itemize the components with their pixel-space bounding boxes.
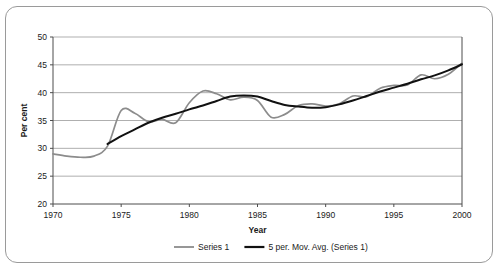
x-tick-label-1980: 1980 [180, 210, 199, 220]
series-line-2 [108, 64, 462, 144]
chart-legend: Series 15 per. Mov. Avg. (Series 1) [174, 242, 368, 252]
chart-plot-area: 20253035404550 1970197519801985199019952… [6, 7, 494, 264]
data-series-group [53, 63, 462, 157]
legend-label-1: Series 1 [198, 242, 229, 252]
x-tick-label-1975: 1975 [112, 210, 131, 220]
y-axis-title: Per cent [19, 104, 29, 138]
x-tick-label-1985: 1985 [248, 210, 267, 220]
x-tick-label-1990: 1990 [316, 210, 335, 220]
x-tick-label-1970: 1970 [44, 210, 63, 220]
y-tick-label-35: 35 [38, 116, 48, 126]
gridlines-group [53, 37, 462, 176]
series-line-1 [53, 63, 462, 157]
x-tick-label-2000: 2000 [453, 210, 472, 220]
x-axis-title: Year [249, 225, 268, 235]
line-chart: 20253035404550 1970197519801985199019952… [6, 7, 494, 264]
y-tick-label-45: 45 [38, 60, 48, 70]
x-axis-tick-labels: 1970197519801985199019952000 [44, 210, 472, 220]
y-axis-tick-labels: 20253035404550 [38, 32, 48, 209]
axes-group [50, 37, 462, 207]
y-tick-label-50: 50 [38, 32, 48, 42]
chart-frame: 20253035404550 1970197519801985199019952… [5, 6, 493, 263]
x-tick-label-1995: 1995 [384, 210, 403, 220]
y-tick-label-40: 40 [38, 88, 48, 98]
legend-label-2: 5 per. Mov. Avg. (Series 1) [268, 242, 368, 252]
y-tick-label-25: 25 [38, 171, 48, 181]
y-tick-label-30: 30 [38, 143, 48, 153]
y-tick-label-20: 20 [38, 199, 48, 209]
